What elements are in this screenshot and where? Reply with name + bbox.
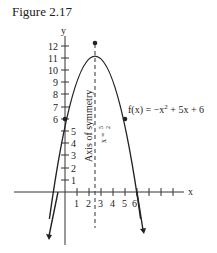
svg-text:2: 2 [86, 198, 91, 209]
svg-text:3: 3 [98, 198, 103, 209]
x-axis-label: x [188, 186, 193, 197]
arrow-right-icon [140, 228, 146, 234]
axis-equation: x = 5 2 [98, 126, 111, 143]
svg-text:11: 11 [48, 53, 58, 64]
svg-text:6: 6 [132, 198, 137, 209]
axis-of-symmetry-label: Axis of symmetry [83, 90, 94, 162]
svg-text:4: 4 [71, 138, 76, 149]
svg-text:x =: x = [99, 132, 108, 143]
svg-text:1: 1 [74, 198, 79, 209]
svg-text:10: 10 [48, 65, 58, 76]
svg-text:8: 8 [53, 89, 58, 100]
svg-text:2: 2 [71, 163, 76, 174]
svg-text:9: 9 [53, 77, 58, 88]
parabola-chart: x y 1 2 3 4 5 6 1 2 3 4 5 6 7 8 9 10 11 [0, 0, 217, 253]
svg-text:1: 1 [71, 175, 76, 186]
svg-text:7: 7 [53, 102, 58, 113]
svg-text:2: 2 [105, 126, 111, 129]
svg-text:5: 5 [122, 198, 127, 209]
y-tick-labels: 1 2 3 4 5 6 7 8 9 10 11 12 [48, 41, 76, 186]
svg-text:12: 12 [48, 41, 58, 52]
point-y-intercept [63, 117, 68, 122]
arrow-left-icon [46, 234, 52, 240]
point-vertex [93, 41, 98, 46]
svg-text:5: 5 [71, 126, 76, 137]
svg-text:5: 5 [98, 126, 104, 129]
svg-text:4: 4 [110, 198, 115, 209]
y-axis-label: y [61, 25, 66, 36]
function-label: f(x) = −x2 + 5x + 6 [128, 103, 204, 116]
point-5-6 [123, 117, 128, 122]
svg-text:3: 3 [71, 150, 76, 161]
x-tick-labels: 1 2 3 4 5 6 [74, 198, 137, 209]
svg-text:6: 6 [53, 114, 58, 125]
